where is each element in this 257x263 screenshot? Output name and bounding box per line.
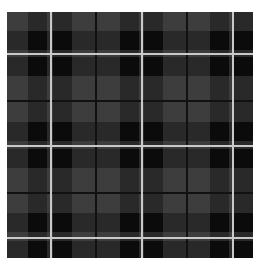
dark-line-vertical [95, 12, 97, 258]
intersection-block [210, 31, 229, 50]
intersection-block [210, 57, 229, 76]
white-line-vertical [232, 12, 234, 258]
intersection-block [120, 57, 139, 76]
intersection-block [144, 241, 163, 258]
intersection-block [144, 149, 163, 168]
white-line-horizontal [7, 237, 253, 239]
intersection-block [53, 57, 72, 76]
intersection-block [144, 122, 163, 141]
intersection-block [28, 149, 47, 168]
intersection-block [53, 122, 72, 141]
dark-line-vertical [186, 12, 188, 258]
intersection-block [144, 31, 163, 50]
dark-line-horizontal [7, 192, 253, 194]
intersection-block [28, 122, 47, 141]
white-line-vertical [50, 12, 52, 258]
intersection-block [53, 149, 72, 168]
intersection-block [120, 241, 139, 258]
intersection-block [144, 57, 163, 76]
intersection-block [234, 31, 253, 50]
intersection-block [234, 241, 253, 258]
intersection-block [28, 57, 47, 76]
intersection-block [144, 213, 163, 232]
intersection-block [234, 122, 253, 141]
white-line-horizontal [7, 145, 253, 147]
intersection-block [210, 241, 229, 258]
intersection-block [28, 213, 47, 232]
intersection-block [28, 31, 47, 50]
intersection-block [120, 149, 139, 168]
intersection-block [120, 31, 139, 50]
intersection-block [28, 241, 47, 258]
intersection-block [53, 241, 72, 258]
intersection-block [120, 213, 139, 232]
intersection-block [53, 31, 72, 50]
white-line-horizontal [7, 53, 253, 55]
intersection-block [210, 213, 229, 232]
dark-line-horizontal [7, 100, 253, 102]
intersection-block [210, 122, 229, 141]
intersection-block [120, 122, 139, 141]
intersection-block [234, 57, 253, 76]
white-line-vertical [141, 12, 143, 258]
intersection-block [210, 149, 229, 168]
intersection-block [234, 213, 253, 232]
intersection-block [234, 149, 253, 168]
intersection-block [53, 213, 72, 232]
plaid-pattern [7, 12, 253, 258]
